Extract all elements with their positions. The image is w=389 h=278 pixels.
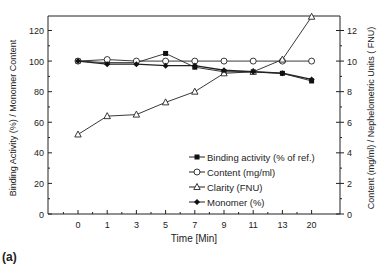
svg-text:Content (mg/ml): Content (mg/ml) [207, 167, 275, 178]
legend-item-3: Monomer (%) [189, 197, 265, 208]
svg-text:6: 6 [347, 118, 352, 128]
y-axis-label: Binding Activity (%) / Monomer Content [8, 39, 18, 196]
svg-text:40: 40 [34, 148, 44, 158]
panel-label: (a) [2, 250, 17, 264]
svg-text:13: 13 [277, 220, 287, 230]
x-axis-label: Time [Min] [171, 233, 218, 244]
series-2 [75, 13, 315, 137]
svg-text:20: 20 [307, 220, 317, 230]
svg-text:Monomer (%): Monomer (%) [207, 197, 265, 208]
svg-text:20: 20 [34, 179, 44, 189]
line-chart: 020406080100120024681012013579111320 Bin… [0, 0, 389, 278]
svg-text:100: 100 [29, 57, 44, 67]
svg-text:5: 5 [163, 220, 168, 230]
plot-frame: 020406080100120024681012013579111320 [29, 16, 357, 230]
svg-text:80: 80 [34, 87, 44, 97]
svg-text:120: 120 [29, 26, 44, 36]
svg-text:8: 8 [347, 87, 352, 97]
svg-text:Clarity (FNU): Clarity (FNU) [207, 182, 262, 193]
svg-text:0: 0 [347, 210, 352, 220]
svg-text:12: 12 [347, 26, 357, 36]
y2-axis-label: Content (mg/ml) / Nephelometric Units ( … [366, 27, 376, 210]
svg-text:4: 4 [347, 148, 352, 158]
svg-text:10: 10 [347, 57, 357, 67]
svg-text:60: 60 [34, 118, 44, 128]
svg-text:7: 7 [192, 220, 197, 230]
legend: Binding activity (% of ref.)Content (mg/… [189, 152, 315, 208]
svg-text:11: 11 [249, 220, 258, 230]
legend-item-0: Binding activity (% of ref.) [189, 152, 315, 163]
svg-text:0: 0 [39, 210, 44, 220]
legend-item-2: Clarity (FNU) [189, 182, 262, 193]
svg-text:9: 9 [221, 220, 226, 230]
svg-text:1: 1 [105, 220, 110, 230]
svg-text:Binding activity (% of ref.): Binding activity (% of ref.) [207, 152, 315, 163]
series-layer [75, 13, 315, 137]
legend-item-1: Content (mg/ml) [189, 167, 275, 178]
svg-text:3: 3 [134, 220, 139, 230]
svg-text:0: 0 [75, 220, 80, 230]
svg-text:2: 2 [347, 179, 352, 189]
